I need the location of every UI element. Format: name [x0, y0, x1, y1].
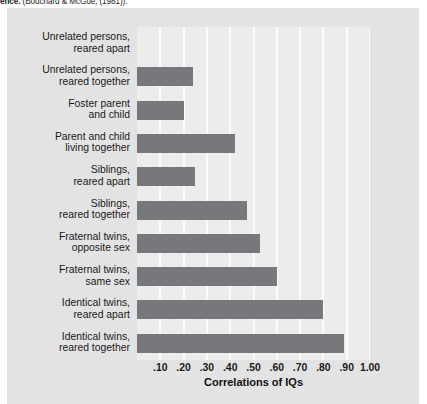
bar-row [137, 227, 370, 260]
bar-row [137, 27, 370, 60]
bar-row [137, 293, 370, 326]
category-label: Fraternal twins,same sex [5, 264, 130, 287]
category-label-line: Parent and child [5, 131, 130, 143]
category-label: Unrelated persons,reared apart [5, 31, 130, 54]
category-label-line: opposite sex [5, 242, 130, 254]
x-tick-label: .50 [246, 362, 260, 373]
x-tick-label: .20 [176, 362, 190, 373]
chart-page: ence. (Bouchard & McGue, (1981)). Unrela… [0, 0, 427, 404]
figure-caption: ence. (Bouchard & McGue, (1981)). [0, 0, 427, 8]
bar [137, 101, 184, 120]
bar [137, 234, 260, 253]
category-label-line: reared apart [5, 309, 130, 321]
category-label-line: Foster parent [5, 98, 130, 110]
x-tick-label: .90 [339, 362, 353, 373]
category-label-line: same sex [5, 276, 130, 288]
category-label-line: Fraternal twins, [5, 264, 130, 276]
x-axis-tick-labels: .10.20.30.40.50.60.70.80.901.00 [137, 362, 370, 376]
bar-row [137, 94, 370, 127]
category-label: Unrelated persons,reared together [5, 64, 130, 87]
category-label-line: Fraternal twins, [5, 231, 130, 243]
category-label-line: Unrelated persons, [5, 64, 130, 76]
category-label-line: reared apart [5, 43, 130, 55]
bar-row [137, 327, 370, 360]
bar [137, 67, 193, 86]
category-label: Fraternal twins,opposite sex [5, 231, 130, 254]
category-label-line: Siblings, [5, 164, 130, 176]
category-label: Identical twins,reared together [5, 331, 130, 354]
figure-caption-source: (Bouchard & McGue, (1981)). [20, 0, 127, 6]
category-label-line: Siblings, [5, 198, 130, 210]
category-label: Foster parentand child [5, 98, 130, 121]
bar-row [137, 194, 370, 227]
category-label-line: Unrelated persons, [5, 31, 130, 43]
plot-area [137, 27, 370, 360]
bar [137, 167, 195, 186]
x-tick-label: .40 [223, 362, 237, 373]
x-tick-label: .10 [153, 362, 167, 373]
bar [137, 134, 235, 153]
x-tick-label: 1.00 [360, 362, 380, 373]
x-tick-label: .30 [200, 362, 214, 373]
category-label-line: and child [5, 109, 130, 121]
category-label: Siblings,reared apart [5, 164, 130, 187]
x-tick-label: .60 [270, 362, 284, 373]
bar [137, 300, 323, 319]
bar-row [137, 60, 370, 93]
figure-caption-bold: ence. [0, 0, 20, 6]
x-tick-label: .80 [316, 362, 330, 373]
category-label-line: reared together [5, 76, 130, 88]
category-label-line: Identical twins, [5, 297, 130, 309]
category-label-line: reared together [5, 209, 130, 221]
bar-row [137, 260, 370, 293]
category-label: Parent and childliving together [5, 131, 130, 154]
bar [137, 334, 344, 353]
bar-row [137, 127, 370, 160]
bar [137, 267, 277, 286]
bar [137, 201, 247, 220]
category-label-line: reared together [5, 342, 130, 354]
category-label-line: reared apart [5, 176, 130, 188]
bar-row [137, 160, 370, 193]
category-label-line: Identical twins, [5, 331, 130, 343]
category-label: Identical twins,reared apart [5, 297, 130, 320]
x-tick-label: .70 [293, 362, 307, 373]
x-axis-title: Correlations of IQs [137, 376, 370, 388]
category-label: Siblings,reared together [5, 198, 130, 221]
category-label-line: living together [5, 142, 130, 154]
